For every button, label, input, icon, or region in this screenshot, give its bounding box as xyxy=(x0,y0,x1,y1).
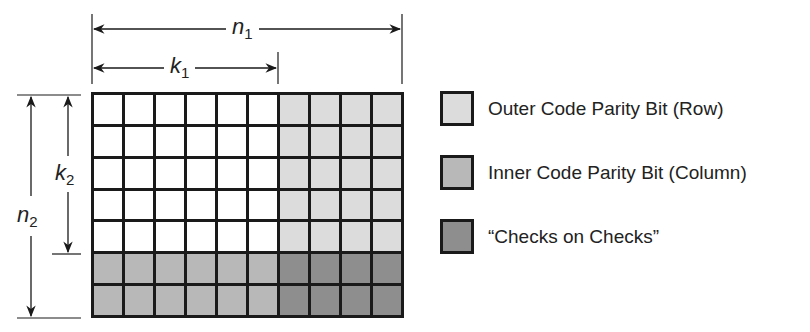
grid-cell-inner xyxy=(187,286,215,315)
grid-cell-inner xyxy=(249,286,277,315)
grid-cell-data xyxy=(125,127,153,156)
grid-cell-outer xyxy=(373,222,401,251)
grid-cell-outer xyxy=(311,222,339,251)
k1-label: k1 xyxy=(164,53,195,81)
grid-cell-data xyxy=(218,95,246,124)
grid-cell-inner xyxy=(125,254,153,283)
grid-cell-inner xyxy=(94,254,122,283)
grid-cell-data xyxy=(187,191,215,220)
k2-label: k2 xyxy=(55,156,74,192)
grid-cell-outer xyxy=(373,127,401,156)
grid-cell-inner xyxy=(187,254,215,283)
grid-cell-data xyxy=(156,159,184,188)
grid-cell-data xyxy=(156,95,184,124)
grid-cell-outer xyxy=(342,127,370,156)
grid-cell-outer xyxy=(311,159,339,188)
grid-cell-data xyxy=(94,127,122,156)
n1-label: n1 xyxy=(226,14,259,42)
grid-cell-data xyxy=(249,159,277,188)
grid-cell-data xyxy=(218,159,246,188)
grid-cell-inner xyxy=(156,286,184,315)
grid-cell-data xyxy=(125,222,153,251)
grid-cell-data xyxy=(187,95,215,124)
legend-label-outer: Outer Code Parity Bit (Row) xyxy=(488,98,723,120)
grid-cell-inner xyxy=(156,254,184,283)
grid-cell-outer xyxy=(342,159,370,188)
legend-item-checks: “Checks on Checks” xyxy=(440,219,659,254)
grid-cell-inner xyxy=(249,254,277,283)
grid-cell-outer xyxy=(342,222,370,251)
legend-label-inner: Inner Code Parity Bit (Column) xyxy=(488,162,747,184)
grid-cell-inner xyxy=(218,286,246,315)
legend-swatch-inner xyxy=(440,155,474,190)
grid-cell-outer xyxy=(373,191,401,220)
grid-cell-outer xyxy=(342,95,370,124)
grid-cell-data xyxy=(125,159,153,188)
grid-cell-checks xyxy=(280,254,308,283)
grid-cell-inner xyxy=(94,286,122,315)
legend-swatch-outer xyxy=(440,91,474,126)
grid-cell-checks xyxy=(373,286,401,315)
grid-cell-data xyxy=(187,127,215,156)
grid-cell-inner xyxy=(218,254,246,283)
grid-cell-outer xyxy=(373,159,401,188)
grid-cell-checks xyxy=(311,286,339,315)
grid-cell-data xyxy=(187,159,215,188)
grid-cell-outer xyxy=(373,95,401,124)
grid-cell-data xyxy=(218,127,246,156)
grid-cell-outer xyxy=(342,191,370,220)
grid-cell-outer xyxy=(311,127,339,156)
grid-cell-data xyxy=(249,191,277,220)
grid-cell-checks xyxy=(311,254,339,283)
grid-cell-outer xyxy=(280,127,308,156)
grid-cell-data xyxy=(94,191,122,220)
grid-cell-data xyxy=(156,222,184,251)
grid-cell-outer xyxy=(280,222,308,251)
grid-cell-outer xyxy=(280,191,308,220)
legend-item-outer: Outer Code Parity Bit (Row) xyxy=(440,91,723,126)
grid-cell-data xyxy=(218,222,246,251)
grid-cell-data xyxy=(156,127,184,156)
grid-cell-outer xyxy=(311,191,339,220)
grid-cell-data xyxy=(249,95,277,124)
grid-cell-data xyxy=(94,159,122,188)
grid-cell-outer xyxy=(311,95,339,124)
grid-cell-data xyxy=(249,127,277,156)
legend-item-inner: Inner Code Parity Bit (Column) xyxy=(440,155,747,190)
legend-swatch-checks xyxy=(440,219,474,254)
grid-cell-checks xyxy=(342,286,370,315)
grid-cell-data xyxy=(218,191,246,220)
grid-cell-checks xyxy=(373,254,401,283)
grid-cell-outer xyxy=(280,159,308,188)
n2-label: n2 xyxy=(17,196,38,236)
product-code-grid xyxy=(91,92,404,318)
grid-cell-data xyxy=(94,95,122,124)
grid-cell-data xyxy=(125,95,153,124)
grid-cell-data xyxy=(249,222,277,251)
legend-label-checks: “Checks on Checks” xyxy=(488,226,659,248)
grid-cell-inner xyxy=(125,286,153,315)
grid-cell-checks xyxy=(342,254,370,283)
grid-cell-outer xyxy=(280,95,308,124)
grid-cell-data xyxy=(125,191,153,220)
grid-cell-data xyxy=(94,222,122,251)
grid-cell-checks xyxy=(280,286,308,315)
grid-cell-data xyxy=(156,191,184,220)
grid-cell-data xyxy=(187,222,215,251)
